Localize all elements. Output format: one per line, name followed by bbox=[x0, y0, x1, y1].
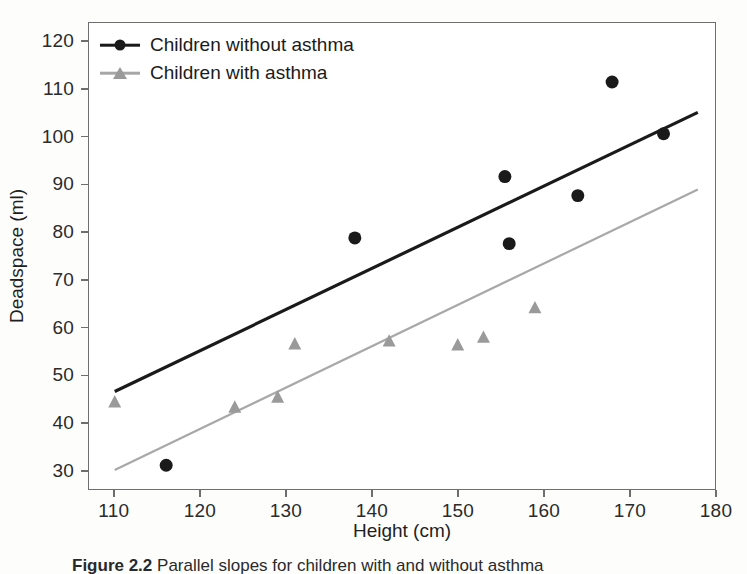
y-tick-mark bbox=[81, 231, 88, 233]
data-point-triangle bbox=[451, 338, 464, 350]
x-tick-mark bbox=[543, 490, 545, 497]
x-axis-title: Height (cm) bbox=[88, 520, 716, 542]
x-tick-mark bbox=[629, 490, 631, 497]
y-tick-label: 90 bbox=[0, 173, 74, 195]
x-tick-label: 110 bbox=[98, 500, 129, 522]
x-tick-label: 170 bbox=[614, 500, 646, 522]
data-point-circle bbox=[348, 231, 361, 244]
y-tick-label: 120 bbox=[0, 30, 74, 52]
y-tick-mark bbox=[81, 88, 88, 90]
data-point-triangle bbox=[271, 390, 284, 402]
legend-label-children-with-asthma: Children with asthma bbox=[150, 62, 327, 84]
x-tick-mark bbox=[285, 490, 287, 497]
x-tick-mark bbox=[371, 490, 373, 497]
y-tick-mark bbox=[81, 40, 88, 42]
y-tick-mark bbox=[81, 422, 88, 424]
data-point-circle bbox=[160, 459, 173, 472]
x-tick-label: 160 bbox=[528, 500, 560, 522]
y-tick-label: 60 bbox=[0, 317, 74, 339]
y-tick-mark bbox=[81, 327, 88, 329]
x-tick-mark bbox=[113, 490, 115, 497]
chart-legend: Children without asthma Children with as… bbox=[100, 34, 354, 84]
legend-marker-triangle-icon bbox=[100, 64, 140, 82]
y-tick-label: 50 bbox=[0, 364, 74, 386]
x-tick-label: 180 bbox=[700, 500, 732, 522]
y-tick-label: 30 bbox=[0, 460, 74, 482]
legend-item-children-with-asthma: Children with asthma bbox=[100, 62, 354, 84]
caption-text: Parallel slopes for children with and wi… bbox=[157, 556, 543, 574]
data-point-circle bbox=[571, 189, 584, 202]
x-tick-label: 130 bbox=[270, 500, 302, 522]
regression-line bbox=[115, 112, 698, 391]
data-point-triangle bbox=[288, 337, 301, 349]
x-tick-label: 120 bbox=[184, 500, 216, 522]
data-point-triangle bbox=[528, 301, 541, 313]
legend-label-children-without-asthma: Children without asthma bbox=[150, 34, 354, 56]
data-point-triangle bbox=[108, 395, 121, 407]
y-tick-label: 70 bbox=[0, 269, 74, 291]
x-tick-mark bbox=[715, 490, 717, 497]
y-tick-mark bbox=[81, 136, 88, 138]
plot-frame bbox=[88, 22, 716, 490]
x-tick-mark bbox=[457, 490, 459, 497]
legend-marker-circle-icon bbox=[100, 36, 140, 54]
y-tick-mark bbox=[81, 184, 88, 186]
figure-container: Deadspace (ml) 30405060708090100110120 1… bbox=[0, 0, 747, 574]
x-tick-mark bbox=[199, 490, 201, 497]
y-tick-mark bbox=[81, 470, 88, 472]
data-point-circle bbox=[498, 170, 511, 183]
figure-caption: Figure 2.2 Parallel slopes for children … bbox=[72, 556, 732, 574]
plot-area bbox=[89, 23, 715, 489]
y-axis-title: Deadspace (ml) bbox=[6, 189, 28, 323]
data-point-circle bbox=[657, 127, 670, 140]
y-tick-label: 110 bbox=[0, 78, 74, 100]
data-point-circle bbox=[503, 237, 516, 250]
x-tick-label: 150 bbox=[442, 500, 474, 522]
y-tick-label: 40 bbox=[0, 412, 74, 434]
y-tick-label: 100 bbox=[0, 126, 74, 148]
caption-figure-number: Figure 2.2 bbox=[72, 556, 152, 574]
legend-item-children-without-asthma: Children without asthma bbox=[100, 34, 354, 56]
data-point-triangle bbox=[228, 400, 241, 412]
data-point-triangle bbox=[477, 330, 490, 342]
x-tick-label: 140 bbox=[356, 500, 388, 522]
y-tick-mark bbox=[81, 375, 88, 377]
regression-line bbox=[115, 189, 698, 470]
y-tick-mark bbox=[81, 279, 88, 281]
y-tick-label: 80 bbox=[0, 221, 74, 243]
data-point-circle bbox=[606, 75, 619, 88]
